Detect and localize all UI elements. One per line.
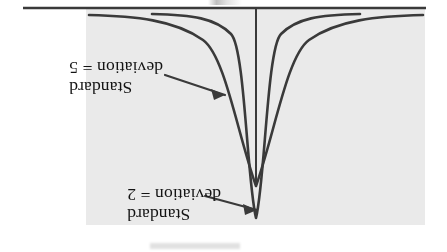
annotation-standard-deviation-2: Standard deviation = 2 [127, 185, 221, 224]
annotation-sd5-line1: Standard [69, 78, 132, 98]
distribution-curves [0, 0, 447, 252]
scan-speckle-artifact [150, 243, 240, 249]
annotation-sd2-line2: deviation = 2 [127, 185, 221, 205]
arrow-to-wide-curve [165, 75, 225, 100]
rotated-figure-stage: Standard deviation = 5 Standard deviatio… [0, 0, 447, 252]
figure-normal-distributions: Standard deviation = 5 Standard deviatio… [0, 0, 447, 252]
annotation-standard-deviation-5: Standard deviation = 5 [69, 58, 163, 97]
cropped-text-remnant [208, 0, 242, 5]
annotation-sd2-line1: Standard [127, 205, 190, 225]
annotation-sd5-line2: deviation = 5 [69, 58, 163, 78]
